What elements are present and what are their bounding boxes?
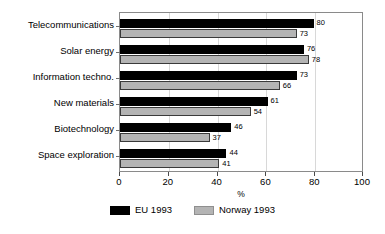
legend-swatch-eu xyxy=(110,206,130,215)
plot-area: 80 73 76 78 73 66 61 54 46 37 xyxy=(119,12,363,172)
x-axis-label: % xyxy=(119,189,363,199)
x-tick-label: 100 xyxy=(354,177,370,187)
bar-eu xyxy=(120,71,297,80)
bar-value-norway: 37 xyxy=(213,134,221,142)
legend-item-eu: EU 1993 xyxy=(110,205,172,215)
bar-eu xyxy=(120,149,226,158)
bar-eu xyxy=(120,97,268,106)
category-axis: Telecommunications Solar energy Informat… xyxy=(0,0,114,234)
gridline-80 xyxy=(315,13,316,171)
bar-eu xyxy=(120,45,304,54)
category-label: Space exploration xyxy=(38,150,114,160)
bar-norway xyxy=(120,159,219,168)
category-label: Information techno. xyxy=(33,72,114,82)
bar-norway xyxy=(120,107,251,116)
bar-value-norway: 54 xyxy=(254,108,262,116)
bar-eu xyxy=(120,19,314,28)
bar-norway xyxy=(120,29,297,38)
bar-value-eu: 61 xyxy=(271,97,279,105)
category-label: Solar energy xyxy=(60,46,114,56)
bar-eu xyxy=(120,123,231,132)
legend: EU 1993 Norway 1993 xyxy=(0,205,385,215)
x-tick-label: 60 xyxy=(260,177,271,187)
legend-label-eu: EU 1993 xyxy=(135,205,172,215)
bar-chart: Telecommunications Solar energy Informat… xyxy=(0,0,385,234)
bar-value-norway: 73 xyxy=(300,30,308,38)
bar-value-eu: 76 xyxy=(307,45,315,53)
bar-value-norway: 66 xyxy=(283,82,291,90)
legend-item-norway: Norway 1993 xyxy=(194,205,275,215)
x-tick-label: 80 xyxy=(309,177,320,187)
x-tick-label: 40 xyxy=(211,177,222,187)
bar-value-norway: 41 xyxy=(222,160,230,168)
x-tick-label: 20 xyxy=(163,177,174,187)
bar-value-eu: 44 xyxy=(229,149,237,157)
legend-label-norway: Norway 1993 xyxy=(219,205,275,215)
legend-swatch-norway xyxy=(194,206,214,215)
bar-value-eu: 46 xyxy=(234,123,242,131)
category-label: New materials xyxy=(54,98,114,108)
bar-value-eu: 80 xyxy=(317,19,325,27)
bar-norway xyxy=(120,55,309,64)
bar-value-norway: 78 xyxy=(312,56,320,64)
category-label: Telecommunications xyxy=(28,20,114,30)
bar-norway xyxy=(120,133,210,142)
bar-norway xyxy=(120,81,280,90)
bar-value-eu: 73 xyxy=(300,71,308,79)
x-tick-label: 0 xyxy=(116,177,121,187)
category-label: Biotechnology xyxy=(54,124,114,134)
